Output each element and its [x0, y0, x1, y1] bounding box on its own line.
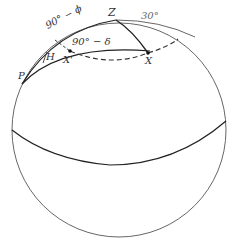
label-star-x-prime: X' [63, 55, 73, 65]
dashed-hour-line [55, 40, 70, 51]
equator-arc [12, 121, 226, 165]
label-angle: 30° [141, 11, 159, 21]
point-x-prime [68, 49, 72, 53]
label-pole: P [18, 71, 25, 81]
label-codeclination: 90° − δ [72, 37, 110, 47]
sphere-drawing [0, 0, 233, 238]
label-star-x: X [145, 56, 152, 66]
label-zenith: Z [108, 7, 116, 18]
arc-pole-star [22, 50, 150, 84]
celestial-sphere-diagram: Z 30° 90° − ϕ 90° − δ H P X' X [0, 0, 233, 238]
label-hour-angle: H [46, 52, 55, 62]
arc-zenith-star [116, 20, 148, 53]
